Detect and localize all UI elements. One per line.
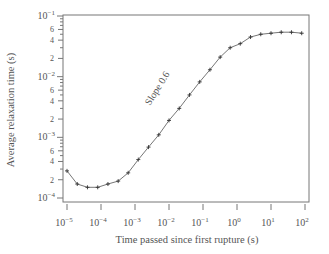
y-minor-tick-label: 4 [50, 97, 54, 106]
y-minor-tick-label: 6 [50, 147, 54, 156]
y-axis: 10−424610−324610−224610−1 [38, 9, 63, 203]
y-minor-tick-label: 6 [50, 86, 54, 95]
y-minor-tick-label: 4 [50, 157, 54, 166]
plot-frame [63, 15, 309, 202]
x-tick-label: 10−2 [157, 216, 175, 228]
relaxation-time-chart: 10−424610−324610−224610−1 10−510−410−310… [0, 0, 329, 254]
y-minor-tick-label: 2 [50, 54, 54, 63]
y-minor-tick-label: 4 [50, 36, 54, 45]
y-tick-label: 10−3 [38, 130, 56, 142]
x-tick-label: 10−5 [55, 216, 73, 228]
x-tick-label: 10−4 [89, 216, 107, 228]
y-axis-label: Average relaxation time (s) [5, 52, 17, 167]
x-axis-label: Time passed since first rupture (s) [116, 234, 259, 246]
x-tick-label: 100 [227, 216, 241, 228]
y-minor-tick-label: 2 [50, 176, 54, 185]
x-tick-label: 102 [295, 216, 309, 228]
x-tick-label: 101 [261, 216, 275, 228]
data-series [65, 30, 304, 189]
y-minor-tick-label: 6 [50, 25, 54, 34]
x-axis: 10−510−410−310−210−1100101102 [55, 204, 309, 228]
y-tick-label: 10−4 [38, 191, 56, 203]
y-tick-label: 10−2 [38, 70, 56, 82]
x-tick-label: 10−1 [191, 216, 209, 228]
y-minor-tick-label: 2 [50, 115, 54, 124]
x-tick-label: 10−3 [123, 216, 141, 228]
y-tick-label: 10−1 [38, 9, 56, 21]
slope-annotation: Slope 0.6 [142, 69, 171, 107]
